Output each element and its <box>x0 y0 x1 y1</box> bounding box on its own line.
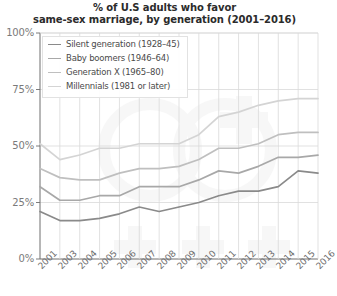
legend-item[interactable]: Millennials (1981 or later) <box>43 79 187 93</box>
y-axis-tick-label: 75% <box>2 84 34 95</box>
watermark-graphic <box>104 96 290 268</box>
y-axis-tick-label: 100% <box>2 27 34 38</box>
legend-item-label: Silent generation (1928–45) <box>66 39 180 49</box>
legend-color-swatch <box>48 44 61 45</box>
legend-item-label: Baby boomers (1946–64) <box>66 53 169 63</box>
y-axis-tick-label: 25% <box>2 197 34 208</box>
legend-color-swatch <box>48 86 61 87</box>
legend-color-swatch <box>48 72 61 73</box>
y-axis-tick-label: 0% <box>2 253 34 264</box>
legend-color-swatch <box>48 58 61 59</box>
legend-item-label: Generation X (1965–80) <box>66 67 164 77</box>
chart-legend: Silent generation (1928–45)Baby boomers … <box>42 36 188 98</box>
legend-item-label: Millennials (1981 or later) <box>66 81 170 91</box>
y-axis-tick-label: 50% <box>2 140 34 151</box>
legend-item[interactable]: Baby boomers (1946–64) <box>43 51 187 65</box>
legend-item[interactable]: Silent generation (1928–45) <box>43 37 187 51</box>
legend-item[interactable]: Generation X (1965–80) <box>43 65 187 79</box>
